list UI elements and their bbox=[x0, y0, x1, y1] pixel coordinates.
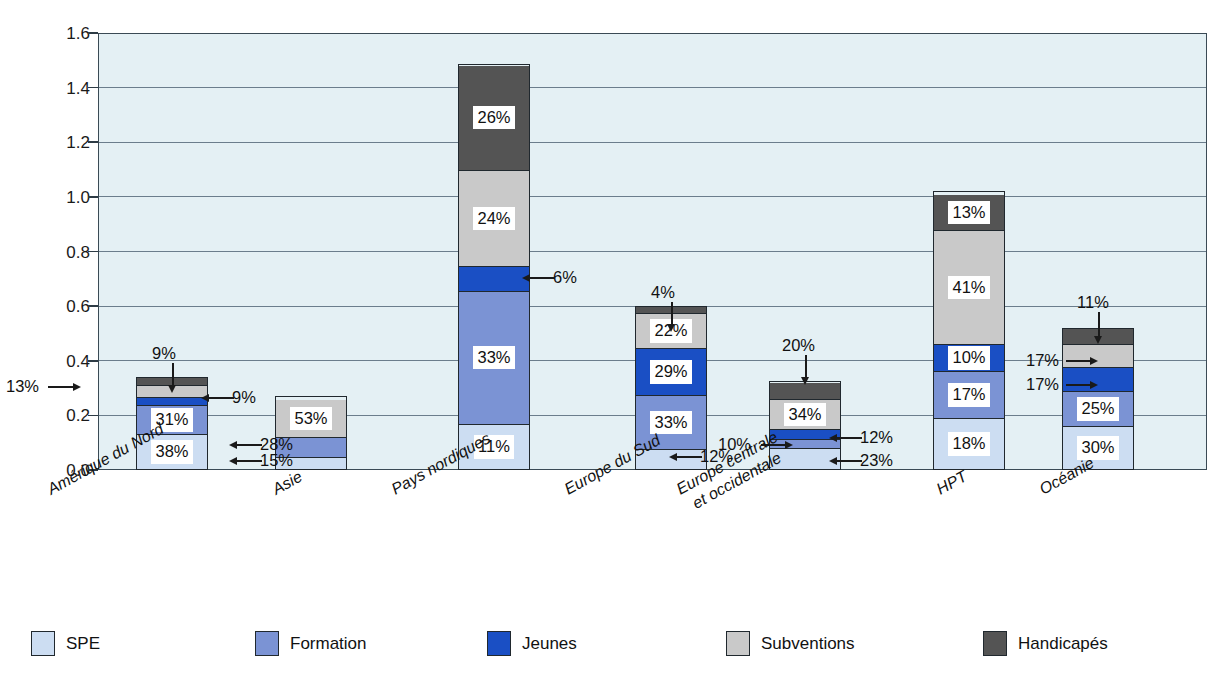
bar-segment-subventions[interactable]: 24% bbox=[459, 171, 529, 268]
callout-label: 17% bbox=[1026, 352, 1059, 369]
legend-label: Formation bbox=[290, 635, 367, 652]
legend-label: SPE bbox=[66, 635, 100, 652]
segment-value-label: 38% bbox=[151, 440, 192, 464]
x-label-line: HPT bbox=[933, 466, 970, 499]
callout-arrow-line bbox=[671, 302, 673, 324]
y-tick-mark bbox=[88, 415, 98, 417]
y-tick-label: 1.0 bbox=[30, 189, 90, 206]
callout-arrow-head bbox=[522, 274, 530, 282]
bar-segment-formation[interactable]: 33% bbox=[459, 292, 529, 425]
legend-swatch-handicapés bbox=[983, 631, 1007, 656]
legend-label: Subventions bbox=[761, 635, 855, 652]
bar-7[interactable]: 30%25% bbox=[1062, 328, 1134, 470]
callout-arrow-line bbox=[677, 456, 702, 458]
bar-segment-subventions[interactable]: 53% bbox=[276, 400, 346, 438]
legend-swatch-jeunes bbox=[487, 631, 511, 656]
y-tick-label: 1.6 bbox=[30, 25, 90, 42]
y-tick-mark bbox=[88, 196, 98, 198]
bar-segment-jeunes[interactable] bbox=[459, 267, 529, 291]
segment-value-label: 33% bbox=[650, 411, 691, 435]
y-tick-label: 0.4 bbox=[30, 353, 90, 370]
x-label-line: Asie bbox=[269, 467, 306, 499]
callout-label: 4% bbox=[651, 284, 675, 301]
gridline bbox=[99, 142, 1206, 143]
legend-item-spe[interactable]: SPE bbox=[31, 631, 100, 656]
bar-3[interactable]: 11%33%24%26% bbox=[458, 64, 530, 470]
callout-arrow-line bbox=[209, 397, 234, 399]
segment-value-label: 17% bbox=[948, 383, 989, 407]
callout-label: 17% bbox=[1026, 376, 1059, 393]
callout-arrow-line bbox=[1098, 312, 1100, 336]
y-tick-label: 0.6 bbox=[30, 298, 90, 315]
legend-label: Jeunes bbox=[522, 635, 577, 652]
y-tick-mark bbox=[88, 305, 98, 307]
x-category-label-2: Asie bbox=[269, 467, 306, 499]
stacked-bar-chart: % du PIB 1.61.41.21.00.80.60.40.20.0 38%… bbox=[0, 0, 1231, 685]
callout-label: 9% bbox=[152, 345, 176, 362]
segment-value-label: 41% bbox=[948, 276, 989, 300]
bar-segment-jeunes[interactable]: 29% bbox=[636, 349, 706, 396]
legend-item-formation[interactable]: Formation bbox=[255, 631, 367, 656]
bar-segment-handicapés[interactable]: 13% bbox=[934, 195, 1004, 231]
legend-label: Handicapés bbox=[1018, 635, 1108, 652]
y-axis-title: % du PIB bbox=[0, 0, 12, 40]
segment-value-label: 29% bbox=[650, 360, 691, 384]
callout-arrow-line bbox=[237, 444, 262, 446]
gridline bbox=[99, 196, 1206, 197]
legend-item-jeunes[interactable]: Jeunes bbox=[487, 631, 577, 656]
callout-arrow-line bbox=[837, 460, 862, 462]
callout-arrow-head bbox=[667, 324, 675, 332]
y-tick-mark bbox=[88, 360, 98, 362]
legend-item-handicapés[interactable]: Handicapés bbox=[983, 631, 1108, 656]
segment-value-label: 53% bbox=[290, 407, 331, 431]
y-tick-label: 0.2 bbox=[30, 407, 90, 424]
callout-arrow-head bbox=[201, 394, 209, 402]
bar-segment-subventions[interactable]: 41% bbox=[934, 231, 1004, 344]
y-tick-mark bbox=[88, 87, 98, 89]
bar-segment-jeunes[interactable]: 10% bbox=[934, 345, 1004, 373]
gridline bbox=[99, 87, 1206, 88]
callout-arrow-line bbox=[805, 355, 807, 377]
callout-label: 23% bbox=[860, 452, 893, 469]
y-tick-label: 1.4 bbox=[30, 80, 90, 97]
y-tick-mark bbox=[88, 251, 98, 253]
bar-segment-handicapés[interactable] bbox=[770, 383, 840, 400]
bar-segment-formation[interactable]: 25% bbox=[1063, 392, 1133, 427]
callout-arrow-head bbox=[669, 453, 677, 461]
bar-segment-handicapés[interactable]: 26% bbox=[459, 66, 529, 171]
callout-label: 12% bbox=[860, 429, 893, 446]
bar-segment-jeunes[interactable] bbox=[137, 398, 207, 406]
bar-6[interactable]: 18%17%10%41%13% bbox=[933, 191, 1005, 470]
legend-swatch-formation bbox=[255, 631, 279, 656]
callout-label: 15% bbox=[260, 452, 293, 469]
legend-swatch-subventions bbox=[726, 631, 750, 656]
callout-arrow-line bbox=[48, 386, 73, 388]
callout-arrow-head bbox=[229, 457, 237, 465]
segment-value-label: 18% bbox=[948, 432, 989, 456]
gridline bbox=[99, 251, 1206, 252]
segment-value-label: 13% bbox=[948, 201, 989, 225]
callout-arrow-head bbox=[229, 441, 237, 449]
x-category-label-6: HPT bbox=[933, 466, 970, 499]
callout-arrow-head bbox=[785, 441, 793, 449]
segment-value-label: 34% bbox=[784, 403, 825, 427]
callout-label: 9% bbox=[232, 389, 256, 406]
callout-arrow-head bbox=[1090, 357, 1098, 365]
bar-segment-jeunes[interactable] bbox=[1063, 368, 1133, 392]
callout-arrow-head bbox=[73, 383, 81, 391]
callout-label: 6% bbox=[553, 269, 577, 286]
callout-arrow-head bbox=[168, 385, 176, 393]
chart-legend: SPEFormationJeunesSubventionsHandicapés bbox=[0, 631, 1231, 671]
bar-segment-subventions[interactable]: 34% bbox=[770, 400, 840, 430]
callout-arrow-head bbox=[829, 434, 837, 442]
callout-label: 20% bbox=[782, 337, 815, 354]
segment-value-label: 25% bbox=[1077, 397, 1118, 421]
bar-segment-spe[interactable]: 18% bbox=[934, 419, 1004, 469]
callout-arrow-head bbox=[829, 457, 837, 465]
callout-arrow-line bbox=[1066, 384, 1090, 386]
callout-arrow-line bbox=[1066, 360, 1090, 362]
y-tick-label: 1.2 bbox=[30, 134, 90, 151]
legend-item-subventions[interactable]: Subventions bbox=[726, 631, 855, 656]
bar-segment-subventions[interactable] bbox=[1063, 345, 1133, 369]
bar-segment-formation[interactable]: 17% bbox=[934, 372, 1004, 419]
